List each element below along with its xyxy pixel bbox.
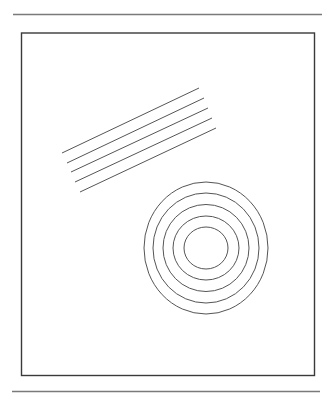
parallel-line bbox=[62, 88, 199, 153]
concentric-circle bbox=[153, 193, 259, 303]
diagram-frame bbox=[22, 33, 315, 376]
diagram-canvas bbox=[0, 0, 333, 397]
diagram-drawing bbox=[0, 0, 333, 397]
concentric-circle bbox=[173, 216, 239, 280]
concentric-circle bbox=[163, 205, 249, 292]
parallel-line bbox=[71, 108, 208, 172]
parallel-lines-group bbox=[62, 88, 216, 192]
concentric-circles-group bbox=[144, 182, 268, 314]
concentric-circle bbox=[184, 227, 228, 269]
horizontal-rules bbox=[12, 15, 322, 392]
